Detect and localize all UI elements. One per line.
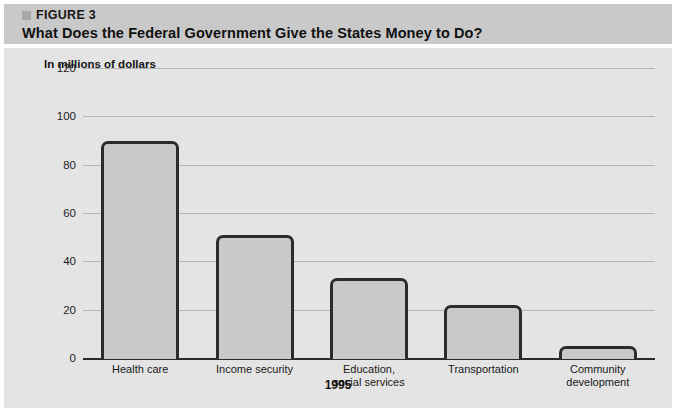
figure-header-band: FIGURE 3 What Does the Federal Governmen… <box>4 4 672 44</box>
x-axis-title: 1995 <box>4 378 672 392</box>
bar <box>444 305 522 359</box>
x-axis-category-label: Health care <box>83 363 197 376</box>
y-axis-tick-label: 120 <box>32 62 76 74</box>
chart-panel: In millions of dollars 020406080100120 H… <box>4 48 672 408</box>
y-axis-tick-label: 40 <box>32 255 76 267</box>
bar <box>101 141 179 360</box>
category-label-line: Health care <box>83 363 197 376</box>
bar <box>559 346 637 359</box>
bar <box>330 278 408 359</box>
y-axis-tick-label: 100 <box>32 110 76 122</box>
category-label-line: Income security <box>197 363 311 376</box>
figure-number-label: FIGURE 3 <box>36 8 96 22</box>
y-axis-tick-label: 80 <box>32 159 76 171</box>
figure-number-line: FIGURE 3 <box>22 7 483 23</box>
x-axis-category-label: Income security <box>197 363 311 376</box>
y-axis-tick-label: 0 <box>32 352 76 364</box>
figure-header-text: FIGURE 3 What Does the Federal Governmen… <box>22 7 483 41</box>
square-marker-icon <box>22 11 31 20</box>
y-axis-tick-label: 20 <box>32 304 76 316</box>
y-axis-ticks: 020406080100120 <box>26 68 76 358</box>
y-axis-tick-label: 60 <box>32 207 76 219</box>
bar <box>216 235 294 359</box>
plot-area <box>83 68 655 358</box>
category-label-line: Community <box>541 363 655 376</box>
gridline <box>83 68 655 69</box>
figure-panel: FIGURE 3 What Does the Federal Governmen… <box>0 0 676 418</box>
category-label-line: Transportation <box>426 363 540 376</box>
category-label-line: Education, <box>312 363 426 376</box>
gridline <box>83 116 655 117</box>
x-axis-category-label: Transportation <box>426 363 540 376</box>
figure-title: What Does the Federal Government Give th… <box>22 25 483 41</box>
